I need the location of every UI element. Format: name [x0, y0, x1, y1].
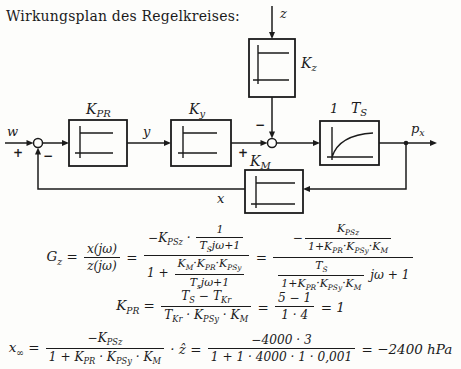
arrowhead-w-icon	[27, 140, 34, 146]
block-kpr	[69, 120, 127, 166]
sign-feedback-minus: −	[43, 149, 53, 163]
sign-w-plus: +	[13, 146, 23, 160]
step-response-icon-ky	[178, 126, 217, 158]
arrowhead-into-sum1-icon	[35, 148, 41, 155]
block-label-ts-coeff: 1	[330, 101, 338, 116]
blocks	[69, 39, 379, 213]
branch-dot	[404, 141, 409, 146]
px-sub: x	[419, 127, 425, 138]
formula-steady-state-deviation: x∞ = −KPSz1 + KPR · KPSy · KM · ẑ = −400…	[0, 330, 461, 367]
step-response-icon-km	[251, 176, 295, 208]
pt1-response-icon-ts	[327, 127, 373, 160]
step-response-icon-kpr	[75, 126, 113, 158]
block-label-km: KM	[249, 153, 271, 171]
summing-junction-1	[34, 139, 43, 148]
signal-label-y: y	[142, 124, 151, 139]
sign-kz-minus: −	[255, 118, 265, 132]
formula-disturbance-transfer-function: Gz = x(jω)z(jω) = −KPSz · 1TSjω+11 + KM·…	[0, 222, 461, 292]
arrowhead-output-icon	[430, 140, 437, 146]
arrowhead-into-ky-icon	[164, 140, 171, 146]
block-label-ky: Ky	[188, 101, 205, 119]
summing-junction-2	[268, 139, 277, 148]
arrowhead-into-km-icon	[303, 186, 310, 192]
block-label-kpr: KPR	[85, 101, 111, 119]
arrowhead-into-sum2-icon	[261, 140, 268, 146]
signal-label-z: z	[279, 6, 287, 21]
ky-sub: y	[198, 108, 205, 119]
signal-label-px: px	[411, 121, 425, 138]
kz-sub: z	[310, 62, 317, 73]
signal-label-x: x	[217, 191, 225, 206]
signal-label-w: w	[7, 124, 18, 139]
step-response-icon-kz	[253, 45, 289, 84]
arrowhead-z-icon	[269, 32, 275, 39]
page: Wirkungsplan des Regelkreises:	[0, 0, 461, 369]
formula-controller-gain: KPR = TS − TKrTKr · KPSy · KM = 5 − 11 ·…	[0, 288, 461, 325]
block-label-kz: Kz	[300, 55, 317, 73]
block-icons	[75, 45, 373, 208]
arrowhead-into-ts-icon	[313, 140, 320, 146]
ts-sub: S	[360, 107, 367, 118]
arrowhead-kz-sum2-icon	[269, 132, 275, 139]
block-km	[245, 170, 303, 213]
block-label-ts: TS	[351, 100, 367, 118]
control-loop-diagram: w y z x px KPR Ky Kz KM 1 TS + − + −	[0, 0, 461, 222]
block-ts	[320, 121, 379, 165]
sign-ky-plus: +	[238, 146, 248, 160]
kpr-sub: PR	[95, 108, 111, 119]
km-sub: M	[259, 160, 271, 171]
block-ky	[171, 120, 231, 166]
block-kz	[249, 39, 295, 97]
arrowhead-into-kpr-icon	[62, 140, 69, 146]
line-feedback-right	[310, 143, 406, 189]
